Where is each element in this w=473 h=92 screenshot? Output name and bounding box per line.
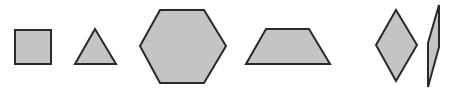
parallelogram-shape [428, 5, 439, 87]
trapezoid-shape [246, 29, 330, 64]
shapes-diagram [0, 0, 473, 92]
square-shape [15, 30, 51, 64]
rhombus-shape [376, 10, 417, 81]
hexagon-shape [140, 10, 226, 83]
triangle-shape [75, 29, 116, 64]
shapes-svg [0, 0, 473, 92]
